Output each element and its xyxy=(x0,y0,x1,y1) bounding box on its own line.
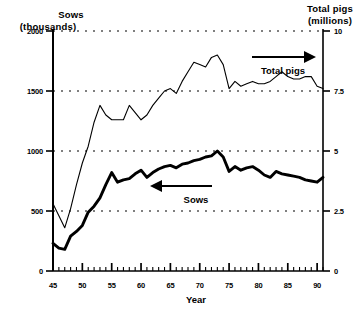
xtick-label-45: 45 xyxy=(49,281,57,290)
x-axis-ticks xyxy=(53,263,323,271)
x-axis-label: Year xyxy=(186,294,206,305)
xtick-label-75: 75 xyxy=(225,281,233,290)
xtick-label-80: 80 xyxy=(254,281,262,290)
left-axis-title-line1: Sows xyxy=(58,9,84,20)
grid-lines xyxy=(53,31,323,211)
right-axis-title-line1: Total pigs xyxy=(307,3,353,14)
total-pigs-annotation-label: Total pigs xyxy=(261,65,305,76)
ytick-left-1000: 1000 xyxy=(27,147,43,156)
ytick-right-7p5: 7.5 xyxy=(334,87,344,96)
sows-annotation: Sows xyxy=(150,180,212,205)
xtick-label-55: 55 xyxy=(108,281,116,290)
sows-annotation-label: Sows xyxy=(184,194,209,205)
ytick-right-0: 0 xyxy=(334,267,338,276)
x-axis-tick-labels: 45505560657075808590 xyxy=(49,281,321,290)
xtick-label-85: 85 xyxy=(284,281,292,290)
ytick-right-5: 5 xyxy=(334,147,338,156)
arrow-left-icon xyxy=(150,180,162,192)
ytick-left-500: 500 xyxy=(31,207,43,216)
arrow-right-icon xyxy=(304,51,316,63)
ytick-left-2000: 2000 xyxy=(27,27,43,36)
xtick-label-90: 90 xyxy=(313,281,321,290)
left-axis-tick-labels: 2000 1500 1000 500 0 xyxy=(27,27,43,276)
right-axis-title-line2: (millions) xyxy=(308,15,352,26)
chart-figure: Sows (thousands) Total pigs (millions) 2… xyxy=(0,0,364,310)
ytick-left-0: 0 xyxy=(39,267,43,276)
ytick-right-2p5: 2.5 xyxy=(334,207,344,216)
xtick-label-60: 60 xyxy=(137,281,145,290)
left-axis-ticks xyxy=(46,31,53,271)
right-axis-ticks xyxy=(323,31,330,271)
sows-total-pigs-line-chart: Sows (thousands) Total pigs (millions) 2… xyxy=(0,0,364,310)
ytick-left-1500: 1500 xyxy=(27,87,43,96)
xtick-label-65: 65 xyxy=(166,281,174,290)
ytick-right-10: 10 xyxy=(334,27,342,36)
xtick-label-50: 50 xyxy=(78,281,86,290)
xtick-label-70: 70 xyxy=(196,281,204,290)
total-pigs-annotation: Total pigs xyxy=(252,51,316,76)
right-axis-tick-labels: 10 7.5 5 2.5 0 xyxy=(334,27,344,276)
